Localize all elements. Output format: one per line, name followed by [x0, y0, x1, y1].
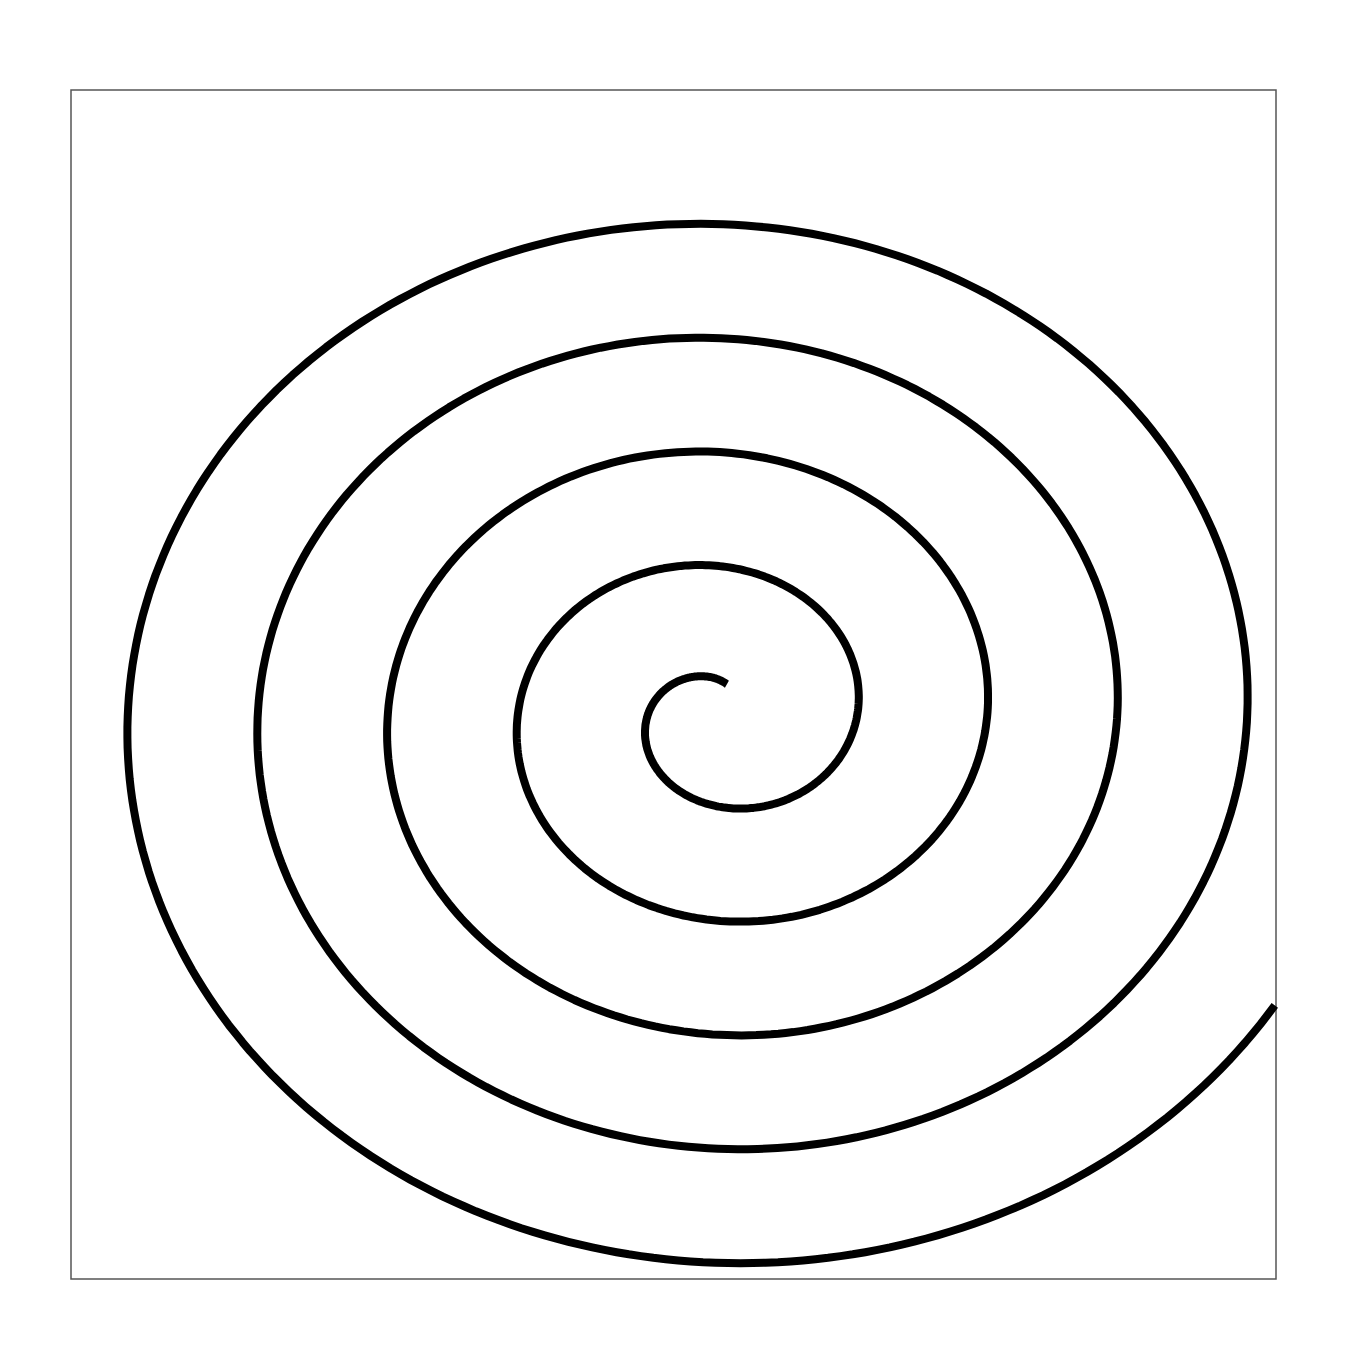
spiral-curve	[127, 224, 1274, 1263]
spiral-figure	[0, 0, 1351, 1348]
